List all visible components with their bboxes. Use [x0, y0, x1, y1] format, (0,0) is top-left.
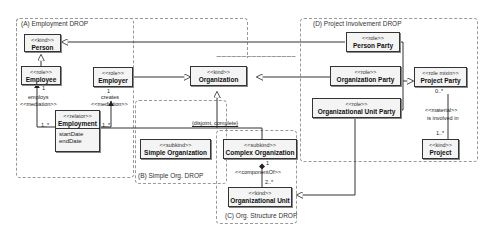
label-component-of: <<componentOf>> — [235, 169, 281, 175]
class-organization[interactable]: <<kind>> Organization — [190, 66, 247, 86]
class-name: Project Party — [415, 77, 466, 85]
stereotype: <<role>> — [22, 69, 60, 76]
stereotype: <<subkind>> — [141, 142, 210, 149]
class-simple-organization[interactable]: <<subkind>> Simple Organization — [140, 139, 211, 159]
class-name: Complex Organization — [224, 149, 296, 157]
class-name: Simple Organization — [141, 149, 210, 157]
label-is-involved-in: is involved in — [427, 115, 459, 121]
stereotype: <<kind>> — [191, 69, 246, 76]
stereotype: <<subkind>> — [224, 142, 296, 149]
class-project[interactable]: <<kind>> Project — [422, 139, 459, 159]
stereotype: <<role mixin>> — [415, 70, 466, 77]
label-employs-mult-top: 1 — [42, 85, 45, 91]
stereotype: <<role>> — [94, 70, 132, 77]
attributes: startDate endDate — [56, 128, 99, 147]
class-project-party[interactable]: <<role mixin>> Project Party — [414, 67, 467, 87]
class-employee[interactable]: <<role>> Employee — [21, 66, 61, 85]
class-name: Organizational Unit Party — [313, 108, 400, 116]
class-employer[interactable]: <<role>> Employer — [93, 67, 133, 87]
label-employs: employs — [28, 94, 48, 100]
label-creates-mult-bottom: 1..* — [102, 122, 110, 128]
class-name: Organization Party — [331, 76, 400, 84]
stereotype: <<kind>> — [25, 37, 60, 44]
class-person-party[interactable]: <<role>> Person Party — [346, 32, 400, 52]
label-creates: creates — [101, 94, 119, 100]
class-name: Employer — [94, 77, 132, 85]
stereotype: <<kind>> — [229, 190, 291, 197]
class-person[interactable]: <<kind>> Person — [24, 34, 61, 52]
label-employs-mult-bottom: 1..* — [41, 122, 49, 128]
class-name: Person — [25, 44, 60, 52]
label-employs-mediation: <<mediation>> — [20, 101, 57, 107]
label-generalization-set: {disjoint, complete} — [192, 120, 238, 126]
label-material: <<material>> — [425, 107, 457, 113]
class-name: Employee — [22, 76, 60, 84]
stereotype: <<relator>> — [56, 113, 99, 120]
label-material-mult-top: 0..* — [435, 88, 443, 94]
attribute: startDate — [59, 131, 96, 138]
class-organizational-unit[interactable]: <<kind>> Organizational Unit — [228, 187, 292, 207]
label-component-mult-top: 1 — [266, 160, 269, 166]
class-name: Project — [423, 149, 458, 157]
class-employment[interactable]: <<relator>> Employment startDate endDate — [55, 110, 100, 152]
class-organization-party[interactable]: <<role>> Organization Party — [330, 66, 401, 86]
label-material-mult-bottom: 1..* — [436, 130, 444, 136]
class-name: Organization — [191, 76, 246, 84]
class-name: Employment — [56, 120, 99, 128]
class-name: Organizational Unit — [229, 197, 291, 205]
label-creates-mediation: <<mediation>> — [91, 101, 128, 107]
label-component-mult-bottom: 2..* — [265, 179, 273, 185]
class-organizational-unit-party[interactable]: <<role>> Organizational Unit Party — [312, 98, 401, 118]
stereotype: <<role>> — [331, 69, 400, 76]
stereotype: <<role>> — [313, 101, 400, 108]
attribute: endDate — [59, 138, 96, 145]
stereotype: <<kind>> — [423, 142, 458, 149]
stereotype: <<role>> — [347, 35, 399, 42]
class-name: Person Party — [347, 42, 399, 50]
class-complex-organization[interactable]: <<subkind>> Complex Organization — [223, 139, 297, 159]
